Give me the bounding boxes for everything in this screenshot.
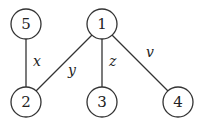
node-3-label: 3 — [97, 93, 107, 111]
edge-1-3-label: z — [108, 53, 117, 69]
graph-diagram: 5 1 2 3 4 x y z v — [0, 0, 201, 127]
node-2-label: 2 — [21, 93, 31, 111]
edge-1-4 — [112, 35, 168, 91]
edge-1-2 — [36, 35, 92, 91]
node-1-label: 1 — [97, 15, 107, 33]
node-4-label: 4 — [173, 93, 183, 111]
node-5-label: 5 — [21, 15, 31, 33]
graph-svg: 5 1 2 3 4 x y z v — [0, 0, 201, 127]
edge-1-4-label: v — [146, 44, 154, 60]
edge-1-2-label: y — [67, 62, 77, 78]
edge-5-2-label: x — [33, 53, 41, 69]
